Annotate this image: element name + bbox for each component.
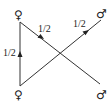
female-symbol-icon: ♀ <box>14 8 23 22</box>
female-symbol-icon: ♀ <box>14 88 23 102</box>
edge-label-vertical: 1/2 <box>3 47 16 58</box>
male-symbol-icon: ♂ <box>96 7 107 21</box>
edge-bottom-left-to-top-right <box>20 20 101 86</box>
edge-label-up-diagonal: 1/2 <box>73 18 86 29</box>
inheritance-diagram: 1/2 1/2 1/2 ♀ ♀ ♂ ♂ <box>0 0 111 103</box>
male-symbol-icon: ♂ <box>96 88 107 102</box>
arrow-up-icon <box>18 51 23 57</box>
edge-label-down-diagonal: 1/2 <box>38 23 51 34</box>
